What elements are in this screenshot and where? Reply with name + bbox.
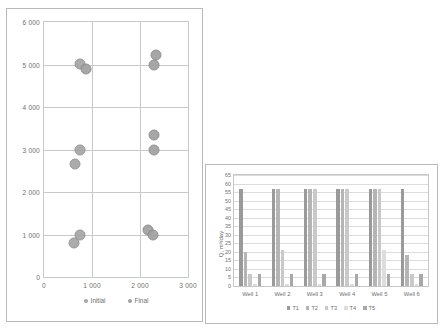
scatter-legend-marker-icon xyxy=(84,299,88,303)
bar-y-tick-label: 45 xyxy=(225,206,231,212)
bar xyxy=(419,274,423,286)
bar-x-tick-label: Well 3 xyxy=(307,291,323,297)
bar-legend-label: T1 xyxy=(292,305,299,311)
bar-y-tick-label: 20 xyxy=(225,249,231,255)
bar xyxy=(253,284,257,286)
scatter-point xyxy=(68,238,79,249)
scatter-legend-item[interactable]: Initial xyxy=(84,297,106,304)
bar xyxy=(345,189,349,286)
scatter-point xyxy=(80,63,91,74)
bar-y-tick-label: 5 xyxy=(228,274,231,280)
bar xyxy=(401,189,405,286)
scatter-point xyxy=(75,144,86,155)
bar-x-tick-label: Well 4 xyxy=(339,291,355,297)
bar-legend-item[interactable]: T5 xyxy=(363,305,375,311)
scatter-y-tick-label: 4 000 xyxy=(22,104,40,111)
bar-group xyxy=(396,175,428,286)
scatter-gridline-vertical xyxy=(140,22,141,277)
bar-legend-swatch-icon xyxy=(287,306,291,310)
bar-y-tick-label: 15 xyxy=(225,257,231,263)
bar-y-tick-label: 25 xyxy=(225,240,231,246)
bar-legend-item[interactable]: T4 xyxy=(344,305,356,311)
bar-y-tick-label: 60 xyxy=(225,181,231,187)
scatter-legend-label: Initial xyxy=(91,297,106,304)
bar xyxy=(369,189,373,286)
bar-legend-swatch-icon xyxy=(325,306,329,310)
scatter-plot-area: 01 0002 0003 0004 0005 0006 00001 0002 0… xyxy=(43,21,189,278)
bar-legend-swatch-icon xyxy=(344,306,348,310)
bar-group xyxy=(331,175,363,286)
bar-group xyxy=(234,175,266,286)
bar xyxy=(258,274,262,286)
scatter-y-tick-label: 6 000 xyxy=(22,19,40,26)
bar xyxy=(336,189,340,286)
bar xyxy=(290,274,294,286)
scatter-point xyxy=(148,229,159,240)
bar xyxy=(355,274,359,286)
scatter-x-tick-label: 0 xyxy=(42,282,46,289)
bar-legend-swatch-icon xyxy=(306,306,310,310)
bar xyxy=(281,250,285,286)
scatter-legend-item[interactable]: Final xyxy=(128,297,149,304)
bar-y-tick-label: 50 xyxy=(225,198,231,204)
bar xyxy=(248,274,252,286)
bar-legend-label: T5 xyxy=(369,305,376,311)
scatter-point xyxy=(149,144,160,155)
scatter-gridline-horizontal xyxy=(44,107,188,108)
bar-y-tick-label: 40 xyxy=(225,215,231,221)
scatter-point xyxy=(148,59,159,70)
bar-group xyxy=(363,175,395,286)
bar-group xyxy=(299,175,331,286)
bar-x-tick-label: Well 6 xyxy=(404,291,420,297)
scatter-y-tick-label: 0 xyxy=(36,274,40,281)
scatter-point xyxy=(148,129,159,140)
scatter-legend-marker-icon xyxy=(128,299,132,303)
bar-legend-item[interactable]: T3 xyxy=(325,305,337,311)
bar xyxy=(341,189,345,286)
bar xyxy=(244,252,248,286)
bar xyxy=(387,274,391,286)
bar-legend-swatch-icon xyxy=(363,306,367,310)
scatter-gridline-vertical xyxy=(92,22,93,277)
bar-legend-label: T4 xyxy=(350,305,357,311)
bar-chart-panel: Q, m³/day 05101520253035404550556065Well… xyxy=(205,164,438,324)
bar xyxy=(373,189,377,286)
bar xyxy=(350,284,354,286)
scatter-x-tick-label: 2 000 xyxy=(131,282,149,289)
scatter-y-tick-label: 5 000 xyxy=(22,61,40,68)
bar-group xyxy=(266,175,298,286)
bar-legend-label: T3 xyxy=(330,305,337,311)
bar-x-tick-label: Well 5 xyxy=(371,291,387,297)
bar xyxy=(410,274,414,286)
bar xyxy=(382,250,386,286)
bar-x-tick-label: Well 2 xyxy=(274,291,290,297)
scatter-x-tick-label: 1 000 xyxy=(83,282,101,289)
bar-y-tick-label: 10 xyxy=(225,266,231,272)
bar xyxy=(285,284,289,286)
scatter-legend-label: Final xyxy=(135,297,149,304)
bar-legend: T1T2T3T4T5 xyxy=(233,305,429,311)
scatter-y-tick-label: 2 000 xyxy=(22,189,40,196)
scatter-y-tick-label: 3 000 xyxy=(22,146,40,153)
bar xyxy=(272,189,276,286)
bar-chart-y-axis-label: Q, m³/day xyxy=(218,231,224,257)
bar xyxy=(239,189,243,286)
scatter-gridline-horizontal xyxy=(44,150,188,151)
bar-y-tick-label: 55 xyxy=(225,189,231,195)
bar-y-tick-label: 0 xyxy=(228,283,231,289)
bar xyxy=(378,189,382,286)
bar xyxy=(318,284,322,286)
bar-y-tick-label: 30 xyxy=(225,232,231,238)
bar-x-tick-label: Well 1 xyxy=(242,291,258,297)
bar-legend-label: T2 xyxy=(311,305,318,311)
bar-plot-area: 05101520253035404550556065Well 1Well 2We… xyxy=(233,174,429,287)
bar-legend-item[interactable]: T1 xyxy=(287,305,299,311)
bar xyxy=(415,284,419,286)
bar-legend-item[interactable]: T2 xyxy=(306,305,318,311)
scatter-gridline-horizontal xyxy=(44,192,188,193)
scatter-y-tick-label: 1 000 xyxy=(22,231,40,238)
scatter-gridline-horizontal xyxy=(44,235,188,236)
bar xyxy=(313,189,317,286)
bar-y-tick-label: 65 xyxy=(225,172,231,178)
bar xyxy=(405,255,409,286)
